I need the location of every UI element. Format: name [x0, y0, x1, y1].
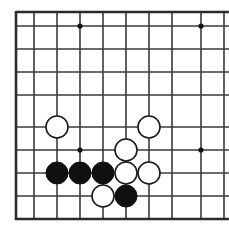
white-stone-row-right-outer[interactable]: [138, 162, 160, 184]
white-stone-middle[interactable]: [115, 139, 137, 161]
black-stone-row-right[interactable]: [92, 162, 114, 184]
black-stone-row-center[interactable]: [69, 162, 91, 184]
black-stone-bottom-right[interactable]: [115, 185, 137, 207]
white-stone-upper-right[interactable]: [138, 116, 160, 138]
go-board-canvas[interactable]: [0, 0, 229, 235]
white-stone-bottom-left[interactable]: [92, 185, 114, 207]
star-point-center-right: [198, 147, 203, 152]
star-point-top-left: [77, 23, 82, 28]
white-stone-upper-left[interactable]: [46, 116, 68, 138]
go-board-diagram: [0, 0, 229, 235]
white-stone-row-right-inner[interactable]: [115, 162, 137, 184]
star-point-top-right: [198, 23, 203, 28]
black-stone-row-left[interactable]: [46, 162, 68, 184]
star-point-center-left: [77, 147, 82, 152]
